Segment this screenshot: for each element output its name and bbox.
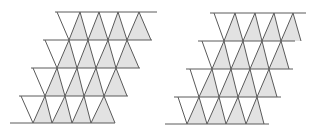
shaded-triangle [212, 41, 231, 69]
shaded-triangle [262, 13, 281, 41]
left-tessellation [10, 12, 157, 123]
shaded-triangle [91, 96, 115, 123]
shaded-triangle [104, 68, 127, 96]
shaded-triangle [72, 96, 91, 123]
shaded-triangle [108, 12, 127, 40]
shaded-triangle [127, 12, 151, 40]
shaded-triangle [231, 41, 250, 69]
shaded-triangle [238, 69, 257, 97]
shaded-triangle [65, 68, 84, 96]
shaded-triangle [243, 13, 262, 41]
shaded-triangle [250, 41, 269, 69]
shaded-triangle [88, 12, 108, 40]
triangle-tessellation-diagram [0, 0, 318, 136]
shaded-triangle [207, 97, 226, 124]
shaded-triangle [219, 69, 238, 97]
shaded-triangle [116, 40, 139, 68]
right-tessellation [165, 13, 306, 124]
shaded-triangle [33, 96, 52, 123]
